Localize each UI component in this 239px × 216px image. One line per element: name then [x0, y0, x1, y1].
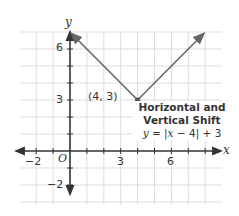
x-axis-label: x — [223, 144, 230, 156]
function-equation: y = |x − 4| + 3 — [133, 127, 231, 140]
function-annotation: Horizontal and Vertical Shift y = |x − 4… — [133, 101, 231, 140]
y-axis-label: y — [65, 16, 72, 28]
annotation-title-line2: Vertical Shift — [133, 114, 231, 127]
curve-right-branch — [138, 34, 204, 100]
x-tick-label-neg2: −2 — [25, 156, 41, 168]
equation-mid: = | — [149, 127, 168, 139]
equation-end: − 4| + 3 — [174, 127, 222, 139]
y-tick-label-neg2: −2 — [47, 179, 63, 191]
annotation-title-line1: Horizontal and — [133, 101, 231, 114]
origin-label: O — [58, 153, 67, 165]
vertex-label: (4, 3) — [88, 91, 118, 103]
y-tick-label-6: 6 — [56, 42, 63, 54]
x-tick-label-3: 3 — [117, 156, 124, 168]
x-tick-label-6: 6 — [167, 156, 174, 168]
y-tick-label-3: 3 — [56, 94, 63, 106]
